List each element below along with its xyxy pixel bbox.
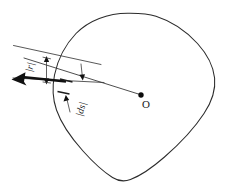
ds-tick-lower — [58, 92, 70, 95]
radial-arrow-shaft — [22, 77, 66, 82]
diagram-canvas: |r| |ds| O — [0, 0, 229, 190]
dimension-r-tick-bottom — [43, 82, 51, 83]
radial-arrow-head — [12, 72, 27, 85]
label-origin: O — [142, 98, 150, 110]
label-radius-vector: |r| — [23, 61, 36, 73]
closed-curve — [53, 13, 215, 181]
dimension-r-arrowhead-bottom — [44, 79, 49, 85]
closed-curve-diagram: |r| |ds| O — [0, 0, 229, 190]
origin-point — [138, 92, 143, 97]
dimension-r-arrowhead-top — [44, 56, 49, 62]
label-surface-element: |ds| — [73, 101, 88, 118]
ds-arrow-head — [64, 95, 70, 102]
